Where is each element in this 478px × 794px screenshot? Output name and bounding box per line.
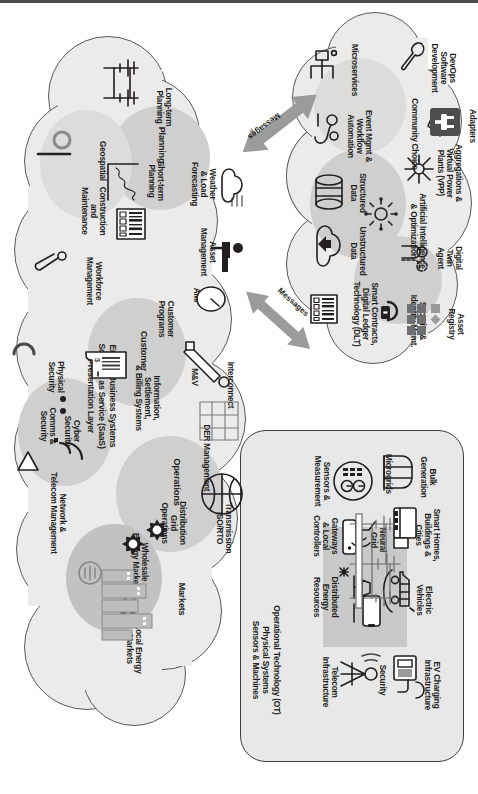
label-line: Agent bbox=[435, 234, 444, 282]
label-line: Gateways bbox=[329, 500, 338, 572]
label-line: Operational Technology (OT) bbox=[272, 580, 283, 740]
cyber-security-dots-icon bbox=[54, 394, 72, 422]
label-line: Presentation Layer bbox=[84, 306, 95, 486]
neural-grid-icon bbox=[340, 506, 420, 616]
label-line: and bbox=[88, 174, 97, 248]
weather-cloud-icon bbox=[212, 166, 246, 210]
operations-globe-icon bbox=[198, 470, 246, 518]
diagram-stage: Microservices Event Mgmt & Workflow Auto… bbox=[0, 0, 478, 794]
label-line: EV Charging bbox=[431, 646, 440, 724]
asset-management-barcode-icon bbox=[116, 208, 146, 240]
label-line: Digital bbox=[453, 234, 462, 282]
label-asset-registry: Asset Registry bbox=[446, 296, 464, 352]
geospatial-pin-icon bbox=[36, 128, 74, 162]
label-line: Resources bbox=[311, 564, 320, 630]
label-line: DevOps bbox=[447, 34, 456, 102]
label-billing-systems: Information, Settlement, & Billing Syste… bbox=[133, 356, 160, 440]
adapters-badge bbox=[430, 108, 460, 136]
label-line: Telecom bbox=[329, 644, 338, 720]
telecom-tower-icon bbox=[338, 652, 380, 696]
diagram-page: Microservices Event Mgmt & Workflow Auto… bbox=[0, 0, 478, 794]
microgrid-icon bbox=[372, 452, 374, 454]
markets-city-icon bbox=[100, 568, 156, 642]
physical-security-lock-icon bbox=[10, 348, 38, 378]
label-gateways-controllers: Gateways & Local Controllers bbox=[311, 500, 338, 572]
label-line: & Load bbox=[198, 150, 207, 218]
label-digital-twin-agent: Digital Twin Agent bbox=[435, 234, 462, 282]
label-line: Sensors & Machines bbox=[251, 580, 262, 740]
asset-registry-icon bbox=[406, 302, 442, 346]
label-line: Twin bbox=[444, 234, 453, 282]
ev-charging-icon bbox=[388, 652, 428, 700]
label-line: Aggregations & bbox=[453, 134, 462, 212]
label-line: Software as Service (SaaS) bbox=[96, 306, 107, 486]
label-line: Electric bbox=[423, 572, 432, 628]
network-management-icon bbox=[14, 448, 42, 480]
cloud-data-icon bbox=[312, 224, 342, 268]
label-der: Distributed Energy Resources bbox=[311, 564, 338, 630]
label-line: Forecasting bbox=[189, 150, 198, 218]
label-line: Digital Ledger bbox=[360, 268, 369, 360]
business-caption: Energy Business Systems Software as Serv… bbox=[84, 306, 118, 486]
label-line: Distributed bbox=[329, 564, 338, 630]
ami-meter-icon bbox=[194, 282, 228, 316]
label-line: Customer bbox=[165, 288, 174, 350]
label-line: Physical Systems bbox=[261, 580, 272, 740]
label-devops: DevOps Software Development bbox=[429, 34, 456, 102]
label-line: Buildings & bbox=[422, 500, 431, 570]
transmission-tower-icon bbox=[102, 58, 154, 114]
label-markets: Markets bbox=[176, 570, 186, 628]
label-short-term-planning: Short-term Planning bbox=[146, 150, 164, 212]
label-telecom-infrastructure: Telecom Infrastructure bbox=[320, 644, 338, 720]
label-line: Settlement, bbox=[142, 356, 151, 440]
label-line: Development bbox=[429, 34, 438, 102]
label-line: & Local bbox=[320, 500, 329, 572]
label-line: Asset bbox=[455, 296, 464, 352]
label-line: Smart Homes, bbox=[431, 500, 440, 570]
label-line: Planning bbox=[146, 150, 155, 212]
label-line: Telecom Management bbox=[48, 458, 57, 568]
label-line: Security bbox=[38, 398, 47, 454]
ai-gear-icon bbox=[364, 196, 398, 232]
label-vpp: Aggregations & Virtual Power Plants (VPP… bbox=[435, 134, 462, 212]
microservices-icon bbox=[314, 50, 338, 80]
label-line: Network & bbox=[57, 458, 66, 568]
sensors-meter-icon bbox=[332, 458, 374, 504]
devops-wrench-icon bbox=[398, 40, 426, 74]
bulk-generation-icon bbox=[380, 450, 418, 496]
forecast-chart-icon bbox=[104, 160, 142, 204]
label-line: Information, bbox=[151, 356, 160, 440]
label-line: Registry bbox=[446, 296, 455, 352]
label-line: Controllers bbox=[311, 500, 320, 572]
label-line: Infrastructure bbox=[320, 644, 329, 720]
label-construction-maintenance: Construction and Maintenance bbox=[79, 174, 106, 248]
comms-signal-icon bbox=[52, 434, 82, 466]
label-line: Generation bbox=[418, 446, 427, 508]
label-line: Energy bbox=[320, 564, 329, 630]
label-line: Smart Contracts, bbox=[369, 268, 378, 360]
billing-invoice-icon: $ bbox=[84, 346, 128, 388]
maintenance-tool-icon bbox=[30, 248, 68, 282]
label-line: Bulk bbox=[427, 446, 436, 508]
interconnect-grid-icon bbox=[198, 400, 240, 442]
label-line: Programs bbox=[156, 288, 165, 350]
carbon-markets-icon bbox=[74, 556, 106, 590]
ot-caption: Operational Technology (OT) Physical Sys… bbox=[251, 580, 283, 740]
label-line: Plants (VPP) bbox=[435, 134, 444, 212]
adapters-plug-icon bbox=[434, 112, 456, 132]
ledger-barcode-icon bbox=[310, 294, 338, 324]
label-line: Virtual Power bbox=[444, 134, 453, 212]
label-adapters: Adapters bbox=[467, 100, 476, 152]
label-bulk-generation: Bulk Generation bbox=[418, 446, 436, 508]
distribution-gears-icon bbox=[116, 512, 170, 564]
label-customer-programs: Customer Programs bbox=[156, 288, 174, 350]
label-line: Energy Business Systems bbox=[107, 306, 118, 486]
svg-text:$: $ bbox=[93, 358, 102, 363]
label-line: Distribution bbox=[177, 490, 186, 556]
mv-instrument-icon bbox=[184, 340, 230, 392]
workforce-person-icon bbox=[210, 238, 246, 278]
label-line: Technology (DLT) bbox=[351, 268, 360, 360]
digital-twin-icon bbox=[400, 238, 430, 272]
label-line: Maintenance bbox=[79, 174, 88, 248]
padlock-security-icon bbox=[378, 296, 404, 326]
